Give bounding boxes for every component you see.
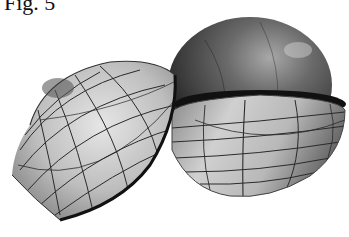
open-hemisphere-shell: [12, 61, 178, 220]
globe-illustration: [0, 0, 349, 237]
lower-hemisphere-cup: [172, 95, 345, 197]
